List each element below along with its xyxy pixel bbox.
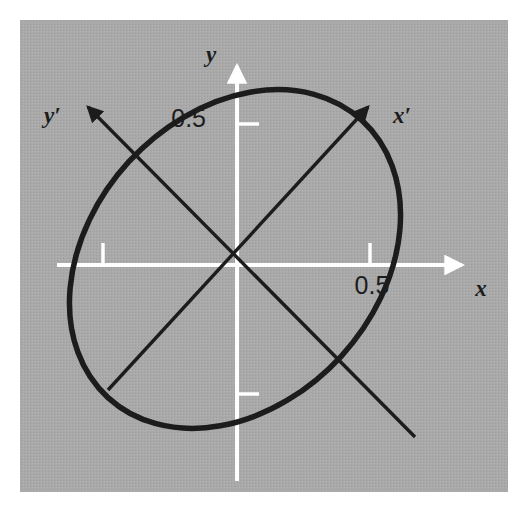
y-prime-axis-label: y′ (41, 103, 61, 128)
figure-root: x y x′ y′ 0.5 0.5 (0, 0, 531, 507)
coordinate-figure: x y x′ y′ 0.5 0.5 (0, 0, 531, 507)
x-tick-label-half: 0.5 (355, 271, 390, 299)
y-axis-label: y (203, 42, 217, 67)
x-prime-axis-label: x′ (392, 103, 411, 128)
y-tick-label-half: 0.5 (171, 104, 206, 132)
x-axis-label: x (474, 276, 487, 301)
